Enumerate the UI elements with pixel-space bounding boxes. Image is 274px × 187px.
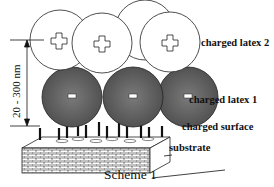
dimension-label: 20 - 300 nm — [10, 65, 22, 118]
latex2-particles — [30, 0, 200, 73]
label-substrate: substrate — [169, 142, 210, 153]
figure-caption: Scheme 1 — [104, 167, 157, 183]
label-charged-latex-2: charged latex 2 — [201, 37, 269, 48]
label-charged-latex-1: charged latex 1 — [189, 94, 257, 105]
label-charged-surface: charged surface — [182, 121, 253, 132]
